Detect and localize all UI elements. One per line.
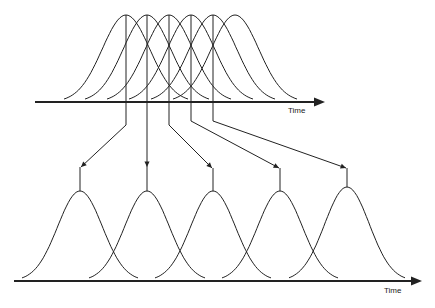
pulse-separation-diagram: Time Time [0, 0, 435, 308]
bottom-axis-label: Time [384, 286, 401, 295]
leader-line [191, 15, 279, 168]
leader-arrowhead-icon [340, 164, 346, 169]
bottom-time-axis-arrowhead-icon [411, 277, 422, 286]
leader-line [81, 15, 126, 167]
leader-arrowhead-icon [144, 162, 149, 167]
top-time-axis-arrowhead-icon [314, 98, 325, 107]
top-axis-label: Time [288, 106, 305, 115]
leader-line [213, 15, 346, 168]
bottom-pulse-curve [289, 187, 405, 278]
diagram-graphic [0, 0, 435, 308]
bottom-pulse-curve [22, 191, 138, 278]
